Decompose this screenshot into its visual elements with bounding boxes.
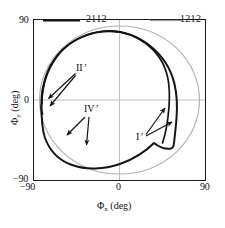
annotation-I-prime-mark: ’ — [139, 131, 143, 142]
x-tick-minus-90: −90 — [20, 181, 35, 192]
annotation-II-prime: II’ — [76, 62, 87, 73]
legend-entry-1212: 1212 — [180, 13, 201, 24]
annotation-IV-prime-mark: ’ — [95, 103, 99, 114]
y-tick-0: 0 — [24, 94, 29, 105]
y-axis-symbol: Φ — [9, 118, 20, 125]
x-tick-90: 90 — [200, 181, 210, 192]
legend-label-2112-text: 2112 — [86, 13, 107, 24]
y-axis-title: Φy (deg) — [9, 91, 22, 125]
annotation-IV-prime: IV’ — [84, 103, 99, 114]
y-tick-90: 90 — [19, 14, 29, 25]
annotation-II-prime-mark: ’ — [83, 62, 87, 73]
legend-entry-2112: 2112 — [86, 13, 107, 24]
annotation-I-prime: I’ — [136, 131, 144, 142]
y-axis-subscript: y — [14, 114, 22, 118]
x-axis-title: Φx (deg) — [97, 200, 131, 213]
figure-container: 2112 1212 II’ IV’ I’ 90 0 −90 −90 0 90 Φ… — [0, 0, 225, 228]
legend-label-1212-text: 1212 — [180, 13, 201, 24]
x-tick-0: 0 — [116, 181, 121, 192]
pole-figure-plot — [0, 0, 225, 228]
annotation-II-prime-text: II — [76, 62, 83, 73]
annotation-IV-prime-text: IV — [84, 103, 95, 114]
y-axis-unit: (deg) — [9, 91, 20, 112]
x-axis-unit: (deg) — [110, 200, 131, 211]
x-axis-subscript: x — [104, 205, 108, 213]
